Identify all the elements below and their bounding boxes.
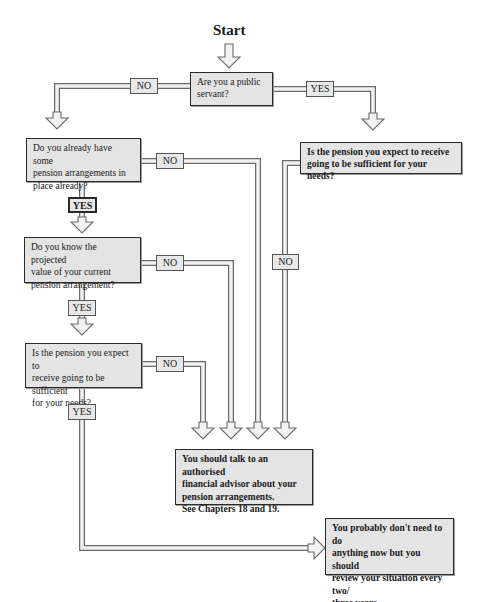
pipe-public-no (46, 86, 190, 129)
edge-label-existing-no: NO (156, 153, 184, 169)
question-existing-arrangements: Do you already have some pension arrange… (26, 138, 141, 182)
pipe-left-sufficient-no (140, 364, 214, 439)
start-arrow-icon (218, 44, 240, 68)
edge-label-left-sufficient-yes: YES (68, 404, 96, 420)
outcome-no-action: You probably don't need to do anything n… (325, 518, 454, 575)
pipe-right-sufficient-no (274, 163, 300, 439)
question-sufficient-right: Is the pension you expect to receive goi… (300, 142, 462, 174)
question-public-servant: Are you a public servant? (190, 72, 273, 106)
pipe-projected-no (140, 263, 242, 439)
start-label: Start (213, 22, 246, 39)
edge-label-projected-no: NO (156, 255, 184, 271)
edge-label-projected-yes: YES (68, 300, 96, 316)
edge-label-right-sufficient-no: NO (272, 254, 299, 270)
question-know-projected-value: Do you know the projected value of your … (24, 237, 141, 283)
outcome-talk-advisor: You should talk to an authorised financi… (175, 449, 313, 505)
edge-label-left-sufficient-no: NO (156, 356, 184, 372)
edge-label-existing-yes: YES (68, 197, 97, 213)
edge-label-public-yes: YES (306, 81, 334, 97)
edge-label-public-no: NO (130, 78, 158, 94)
question-sufficient-left: Is the pension you expect to receive goi… (25, 343, 142, 388)
